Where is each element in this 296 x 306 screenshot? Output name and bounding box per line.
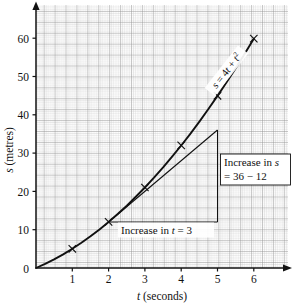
annotation-increase-in-t-text: Increase in t = 3 <box>121 224 192 236</box>
x-tick-label-1: 1 <box>69 273 75 285</box>
annotation-increase-in-s-line2: = 36 − 12 <box>224 170 267 182</box>
graph-figure: 0 10 20 30 40 50 60 1 2 3 4 5 6 <box>0 0 296 306</box>
y-tick-label-10: 10 <box>18 224 30 236</box>
annotation-increase-in-s: Increase in s = 36 − 12 <box>221 154 291 185</box>
y-axis-tick-labels: 0 10 20 30 40 50 60 <box>18 33 30 275</box>
y-tick-label-0: 0 <box>23 263 29 275</box>
y-tick-label-60: 60 <box>18 33 30 45</box>
x-axis-title: t (seconds) <box>137 290 187 303</box>
annotation-increase-in-s-line1: Increase in s <box>224 156 279 168</box>
y-tick-label-30: 30 <box>18 147 30 159</box>
quadratic-distance-time-graph: 0 10 20 30 40 50 60 1 2 3 4 5 6 <box>0 0 296 306</box>
y-tick-label-50: 50 <box>18 71 30 83</box>
y-tick-label-20: 20 <box>18 186 30 198</box>
x-tick-label-6: 6 <box>251 273 257 285</box>
x-tick-label-2: 2 <box>106 273 112 285</box>
y-tick-label-40: 40 <box>18 109 30 121</box>
x-axis-tick-labels: 1 2 3 4 5 6 <box>69 273 257 285</box>
y-axis-title: s (metres) <box>3 127 16 173</box>
x-tick-label-5: 5 <box>215 273 221 285</box>
annotation-increase-in-t: Increase in t = 3 <box>118 223 214 238</box>
x-tick-label-4: 4 <box>178 273 184 285</box>
x-tick-label-3: 3 <box>142 273 148 285</box>
